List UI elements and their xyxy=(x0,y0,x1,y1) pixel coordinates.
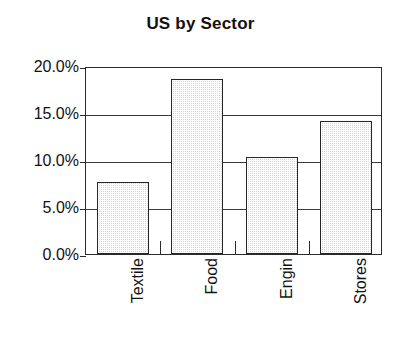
x-axis-tick-label: Stores xyxy=(353,258,369,304)
x-axis-tick-label: Food xyxy=(204,258,220,294)
x-axis-tick-label: Engin xyxy=(279,258,295,299)
y-axis-label-group: 20.0% 15.0% 10.0% 5.0% 0.0% xyxy=(0,67,79,255)
y-axis-tick-label: 20.0% xyxy=(0,59,79,75)
bar xyxy=(171,79,223,254)
plot-area xyxy=(85,67,382,255)
chart-title: US by Sector xyxy=(0,14,401,34)
y-axis-tick xyxy=(80,256,86,257)
bar xyxy=(97,182,149,254)
y-axis-tick-label: 5.0% xyxy=(0,200,79,216)
bar-chart: US by Sector 20.0% 15.0% 10.0% 5.0% 0.0%… xyxy=(0,0,401,342)
x-axis-tick-label: Textile xyxy=(130,258,146,303)
bar xyxy=(320,121,372,254)
x-axis-label-group: Textile Food Engin Stores xyxy=(0,258,401,342)
bar-group xyxy=(86,68,381,254)
y-axis-tick-label: 10.0% xyxy=(0,153,79,169)
y-axis-tick-label: 15.0% xyxy=(0,106,79,122)
bar xyxy=(246,157,298,254)
